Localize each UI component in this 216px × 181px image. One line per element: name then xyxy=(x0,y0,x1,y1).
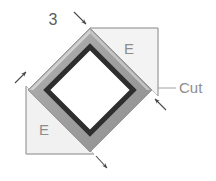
edge-label-right: E xyxy=(124,40,134,57)
thickness-label: 3 xyxy=(49,11,58,28)
edge-arrow-upper-left xyxy=(15,72,26,83)
edge-arrow-lower-right xyxy=(96,156,107,168)
cut-label: Cut xyxy=(179,79,203,96)
diagram-canvas: 3 E E Cut xyxy=(0,0,216,181)
square-tube-miter-diagram: 3 E E Cut xyxy=(0,0,216,181)
edge-label-left: E xyxy=(39,121,49,138)
cut-arrow xyxy=(155,99,166,110)
thickness-arrow-top xyxy=(74,12,86,24)
